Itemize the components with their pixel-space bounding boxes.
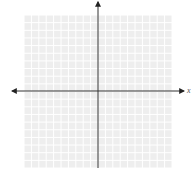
x-axis-label: x	[186, 86, 191, 95]
coordinate-plane: x	[0, 0, 192, 173]
